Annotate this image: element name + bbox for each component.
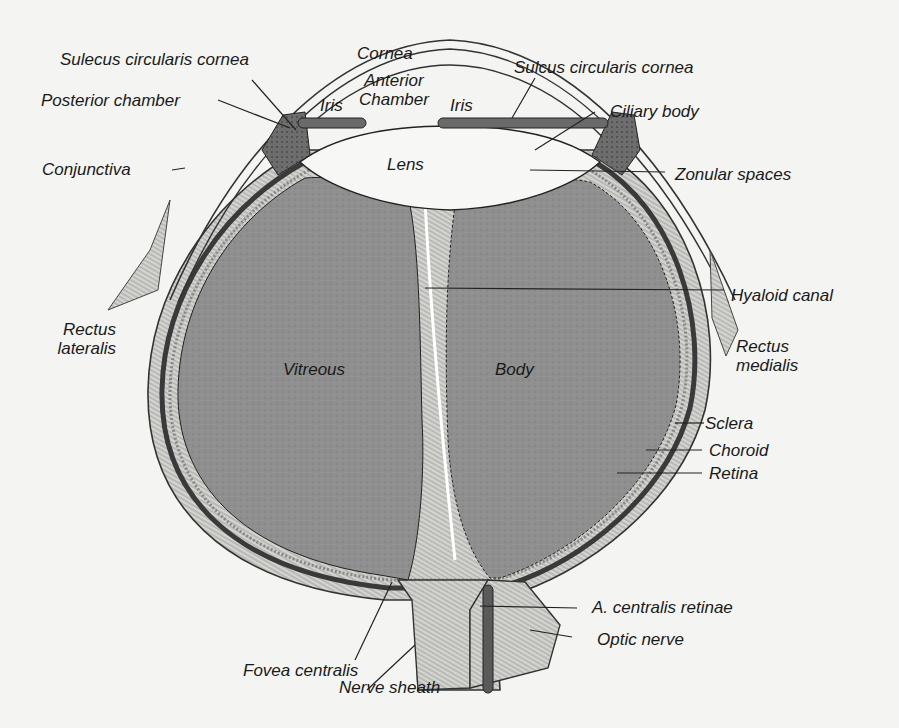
- vitreous-right-lobe: [446, 179, 680, 578]
- label-choroid: Choroid: [709, 441, 769, 460]
- label-posterior-chamber: Posterior chamber: [41, 91, 180, 110]
- label-rectus-medialis: Rectus medialis: [736, 337, 798, 375]
- label-zonular-spaces: Zonular spaces: [675, 165, 791, 184]
- label-sclera: Sclera: [705, 414, 753, 433]
- label-optic-nerve: Optic nerve: [597, 630, 684, 649]
- label-body: Body: [495, 360, 534, 379]
- label-ciliary-body: Ciliary body: [610, 102, 699, 121]
- label-iris-left: Iris: [320, 96, 343, 115]
- optic-nerve-drawing: [398, 580, 560, 693]
- label-vitreous: Vitreous: [283, 360, 345, 379]
- label-sulcus-circularis-cornea: Sulcus circularis cornea: [514, 58, 694, 77]
- rectus-lateralis-muscle: [108, 200, 170, 310]
- label-iris-right: Iris: [450, 96, 473, 115]
- label-cornea: Cornea: [357, 44, 413, 63]
- label-a-centralis-retinae: A. centralis retinae: [592, 598, 733, 617]
- label-rectus-lateralis: Rectus lateralis: [42, 320, 116, 358]
- iris-left-drawing: [298, 118, 366, 128]
- label-anterior-chamber: Anterior Chamber: [359, 71, 429, 109]
- label-retina: Retina: [709, 464, 758, 483]
- label-hyaloid-canal: Hyaloid canal: [731, 286, 833, 305]
- label-conjunctiva: Conjunctiva: [42, 160, 131, 179]
- label-lens: Lens: [387, 155, 424, 174]
- label-sulecus-circularis-cornea: Sulecus circularis cornea: [60, 50, 249, 69]
- label-nerve-sheath: Nerve sheath: [339, 678, 440, 697]
